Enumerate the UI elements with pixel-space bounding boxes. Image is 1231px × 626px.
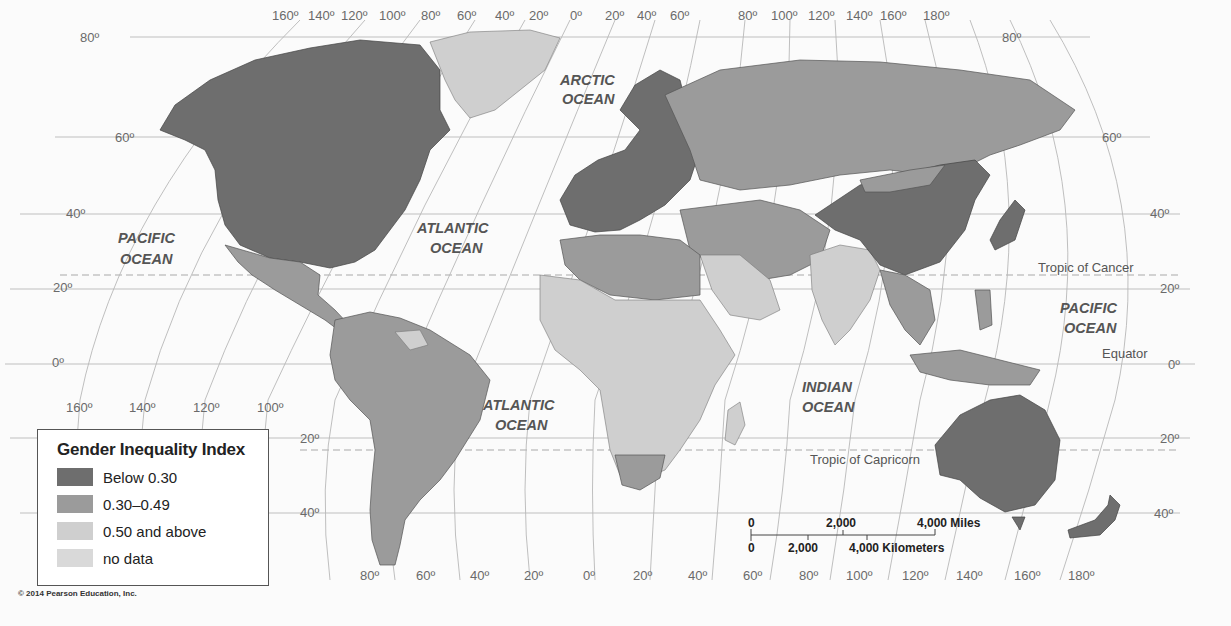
svg-text:OCEAN: OCEAN: [562, 91, 615, 107]
svg-text:180º: 180º: [923, 8, 950, 23]
copyright-notice: © 2014 Pearson Education, Inc.: [18, 589, 137, 598]
legend-item-below-030: Below 0.30: [57, 467, 177, 487]
svg-text:0: 0: [748, 541, 755, 555]
indonesia: [910, 350, 1040, 385]
svg-text:OCEAN: OCEAN: [495, 417, 548, 433]
legend-title: Gender Inequality Index: [57, 440, 245, 460]
svg-text:100º: 100º: [257, 400, 284, 415]
svg-text:40º: 40º: [1150, 206, 1169, 221]
svg-text:60º: 60º: [416, 568, 435, 583]
philippines: [975, 290, 992, 330]
svg-text:20º: 20º: [53, 280, 72, 295]
svg-text:20º: 20º: [529, 8, 548, 23]
svg-text:40º: 40º: [1154, 506, 1173, 521]
svg-text:4,000 Miles: 4,000 Miles: [917, 516, 981, 530]
svg-text:PACIFIC: PACIFIC: [1060, 300, 1117, 316]
madagascar: [725, 402, 745, 445]
svg-text:2,000: 2,000: [788, 541, 818, 555]
legend-item-030-049: 0.30–0.49: [57, 494, 170, 514]
svg-text:100º: 100º: [771, 8, 798, 23]
svg-text:40º: 40º: [470, 568, 489, 583]
svg-text:140º: 140º: [308, 8, 335, 23]
svg-text:4,000 Kilometers: 4,000 Kilometers: [849, 541, 945, 555]
svg-text:ATLANTIC: ATLANTIC: [482, 397, 555, 413]
india: [810, 245, 880, 345]
new-zealand: [1068, 495, 1120, 538]
svg-text:140º: 140º: [129, 400, 156, 415]
north-america-low: [160, 40, 450, 268]
svg-text:40º: 40º: [495, 8, 514, 23]
top-longitude-labels: 160º 140º 120º 100º 80º 60º 40º 20º 0º 2…: [272, 8, 950, 23]
svg-text:40º: 40º: [66, 206, 85, 221]
svg-text:INDIAN: INDIAN: [802, 379, 852, 395]
svg-text:160º: 160º: [880, 8, 907, 23]
legend-item-050-above: 0.50 and above: [57, 521, 206, 541]
svg-text:100º: 100º: [379, 8, 406, 23]
svg-text:2,000: 2,000: [826, 516, 856, 530]
svg-text:80º: 80º: [738, 8, 757, 23]
legend-swatch: [57, 522, 93, 540]
svg-text:0º: 0º: [52, 355, 64, 370]
svg-text:OCEAN: OCEAN: [430, 240, 483, 256]
svg-text:60º: 60º: [670, 8, 689, 23]
svg-text:80º: 80º: [360, 568, 379, 583]
svg-text:20º: 20º: [300, 431, 319, 446]
svg-text:160º: 160º: [272, 8, 299, 23]
svg-text:60º: 60º: [457, 8, 476, 23]
legend-swatch: [57, 495, 93, 513]
svg-text:120º: 120º: [341, 8, 368, 23]
svg-text:0: 0: [748, 516, 755, 530]
svg-text:160º: 160º: [1014, 568, 1041, 583]
svg-text:Equator: Equator: [1102, 346, 1148, 361]
svg-text:PACIFIC: PACIFIC: [118, 230, 175, 246]
greenland: [430, 30, 560, 118]
legend-swatch: [57, 549, 93, 567]
svg-text:0º: 0º: [1168, 357, 1180, 372]
svg-text:Tropic of Cancer: Tropic of Cancer: [1038, 260, 1134, 275]
land-masses: [160, 30, 1120, 565]
svg-text:60º: 60º: [743, 568, 762, 583]
svg-text:120º: 120º: [808, 8, 835, 23]
australia: [935, 395, 1060, 512]
svg-text:180º: 180º: [1068, 568, 1095, 583]
svg-text:80º: 80º: [421, 8, 440, 23]
svg-text:60º: 60º: [115, 130, 134, 145]
svg-text:20º: 20º: [633, 568, 652, 583]
svg-text:100º: 100º: [846, 568, 873, 583]
svg-text:OCEAN: OCEAN: [120, 251, 173, 267]
svg-text:120º: 120º: [193, 400, 220, 415]
svg-text:80º: 80º: [80, 30, 99, 45]
svg-text:0º: 0º: [583, 568, 595, 583]
svg-text:20º: 20º: [605, 8, 624, 23]
scale-bar: 0 2,000 4,000 Miles 0 2,000 4,000 Kilome…: [748, 516, 981, 555]
svg-text:80º: 80º: [1002, 30, 1021, 45]
south-africa: [615, 455, 665, 490]
svg-text:20º: 20º: [1160, 431, 1179, 446]
svg-text:40º: 40º: [688, 568, 707, 583]
japan: [990, 200, 1025, 250]
svg-text:80º: 80º: [799, 568, 818, 583]
svg-text:140º: 140º: [846, 8, 873, 23]
svg-text:Tropic of Capricorn: Tropic of Capricorn: [810, 452, 920, 467]
russia: [665, 60, 1075, 190]
legend-swatch: [57, 468, 93, 486]
svg-text:ATLANTIC: ATLANTIC: [416, 220, 489, 236]
svg-text:120º: 120º: [902, 568, 929, 583]
africa: [540, 275, 735, 480]
svg-text:20º: 20º: [524, 568, 543, 583]
legend-item-no-data: no data: [57, 548, 153, 568]
svg-text:40º: 40º: [300, 505, 319, 520]
svg-text:0º: 0º: [570, 8, 582, 23]
svg-text:160º: 160º: [66, 400, 93, 415]
svg-text:140º: 140º: [956, 568, 983, 583]
svg-text:40º: 40º: [637, 8, 656, 23]
svg-text:20º: 20º: [1160, 281, 1179, 296]
southeast-asia: [880, 270, 935, 345]
svg-text:60º: 60º: [1102, 130, 1121, 145]
svg-text:OCEAN: OCEAN: [802, 399, 855, 415]
tasmania: [1012, 517, 1025, 530]
legend: Gender Inequality Index Below 0.30 0.30–…: [37, 429, 269, 586]
svg-text:ARCTIC: ARCTIC: [559, 72, 615, 88]
svg-text:OCEAN: OCEAN: [1064, 320, 1117, 336]
